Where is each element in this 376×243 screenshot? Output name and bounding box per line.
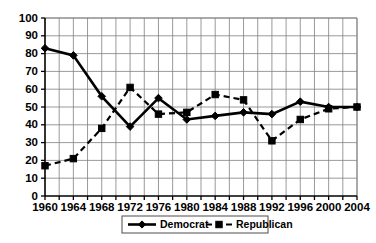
x-tick-label: 1988: [231, 201, 257, 213]
y-tick-label: 20: [25, 154, 38, 166]
y-tick-label: 60: [25, 83, 38, 95]
data-point-republican-2004: [354, 104, 360, 110]
y-tick-label: 70: [25, 65, 38, 77]
data-point-democrat-1984: [211, 112, 219, 120]
x-tick-label: 1984: [202, 201, 228, 213]
x-tick-label: 1972: [117, 201, 143, 213]
data-point-republican-1960: [42, 163, 48, 169]
data-point-republican-1988: [240, 97, 246, 103]
chart-container: 0102030405060708090100 19601964196819721…: [0, 0, 376, 243]
x-tick-label: 1964: [61, 201, 87, 213]
data-point-republican-1984: [212, 91, 218, 97]
grid-layer: [45, 18, 357, 196]
x-axis-tick-labels: 1960196419681972197619801984198819921996…: [32, 201, 370, 213]
data-point-republican-2000: [325, 106, 331, 112]
data-point-republican-1968: [99, 125, 105, 131]
x-tick-label: 1976: [146, 201, 172, 213]
data-point-republican-1976: [155, 111, 161, 117]
legend-label-republican: Republican: [236, 218, 293, 230]
x-tick-label: 1980: [174, 201, 200, 213]
data-point-democrat-1996: [296, 98, 304, 106]
data-point-democrat-1992: [268, 110, 276, 118]
line-chart: 0102030405060708090100 19601964196819721…: [0, 0, 376, 243]
legend-label-democrat: Democrat: [160, 218, 209, 230]
axis-ticks: [41, 18, 357, 200]
y-tick-label: 40: [25, 118, 38, 130]
legend-marker-republican: [216, 221, 222, 227]
data-point-democrat-1988: [240, 109, 248, 117]
y-tick-label: 0: [32, 190, 38, 202]
y-tick-label: 100: [19, 12, 38, 24]
x-tick-label: 1968: [89, 201, 115, 213]
data-point-republican-1992: [269, 138, 275, 144]
data-point-republican-1996: [297, 116, 303, 122]
chart-legend: DemocratRepublican: [122, 216, 293, 233]
x-tick-label: 1992: [259, 201, 285, 213]
y-tick-label: 80: [25, 47, 38, 59]
data-point-republican-1980: [184, 109, 190, 115]
y-tick-label: 30: [25, 136, 38, 148]
y-tick-label: 10: [25, 172, 38, 184]
data-point-republican-1964: [70, 155, 76, 161]
x-tick-label: 2000: [316, 201, 342, 213]
y-tick-label: 90: [25, 29, 38, 41]
x-tick-label: 1960: [32, 201, 58, 213]
y-axis-tick-labels: 0102030405060708090100: [19, 12, 38, 202]
y-tick-label: 50: [25, 101, 38, 113]
x-tick-label: 2004: [344, 201, 370, 213]
data-point-democrat-1960: [41, 44, 49, 52]
x-tick-label: 1996: [287, 201, 313, 213]
data-point-republican-1972: [127, 84, 133, 90]
